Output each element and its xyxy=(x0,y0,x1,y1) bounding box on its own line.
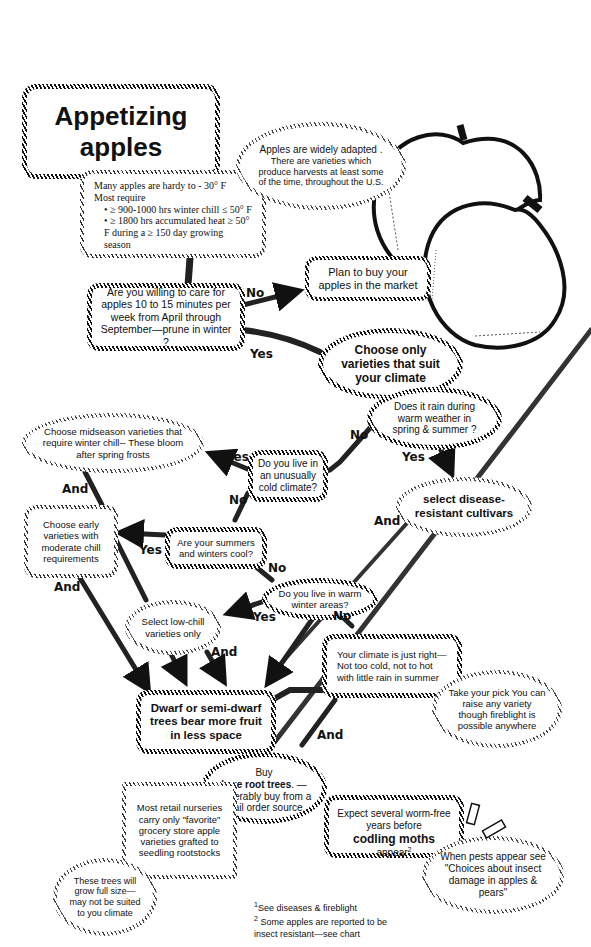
label-yes: Yes xyxy=(226,450,249,464)
footnote-2: 2 Some apples are reported to be insect … xyxy=(254,914,394,940)
pencil-icon xyxy=(467,803,480,824)
flowchart-canvas: Appetizing apples Many apples are hardy … xyxy=(0,0,591,947)
pencil-icon xyxy=(482,820,505,838)
footnote-text: Some apples are reported to be insect re… xyxy=(254,917,387,939)
label-no: No xyxy=(229,493,247,507)
label-yes: Yes xyxy=(139,543,162,557)
label-and: And xyxy=(374,514,400,528)
label-no: No xyxy=(350,428,368,442)
footnote-text: See diseases & fireblight xyxy=(258,903,357,913)
label-and: And xyxy=(62,482,88,496)
footnote-num: 2 xyxy=(254,915,258,922)
label-no: No xyxy=(333,609,351,623)
label-and: And xyxy=(211,645,237,659)
footnote-1: 1See diseases & fireblight xyxy=(254,900,357,915)
label-yes: Yes xyxy=(402,450,425,464)
label-and: And xyxy=(317,728,343,742)
label-yes: Yes xyxy=(250,347,273,361)
label-no: No xyxy=(246,286,264,300)
label-and: And xyxy=(54,580,80,594)
label-yes: Yes xyxy=(253,610,276,624)
pencil-icons xyxy=(0,0,591,947)
label-no: No xyxy=(268,561,286,575)
